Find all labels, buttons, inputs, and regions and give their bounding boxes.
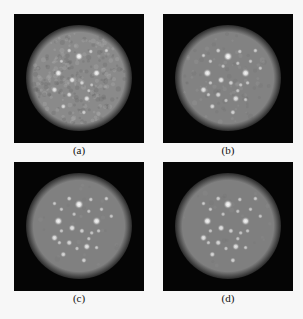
- noise-speckle: [110, 69, 112, 71]
- hot-spot: [223, 52, 233, 62]
- noise-speckle: [46, 89, 48, 91]
- hot-spot: [258, 214, 263, 219]
- noise-speckle: [234, 120, 236, 122]
- hot-spot: [209, 251, 215, 257]
- noise-speckle: [209, 200, 214, 205]
- hot-spot: [66, 92, 72, 98]
- noise-speckle: [112, 77, 116, 81]
- noise-speckle: [60, 80, 64, 84]
- noise-speckle: [225, 67, 229, 71]
- noise-speckle: [84, 121, 87, 124]
- hot-spot: [52, 201, 57, 206]
- hot-spot: [86, 236, 91, 241]
- noise-speckle: [81, 76, 83, 78]
- hot-spot: [248, 59, 253, 64]
- hot-spot: [232, 243, 240, 251]
- noise-speckle: [69, 40, 71, 42]
- noise-speckle: [65, 121, 67, 123]
- hot-spot: [215, 48, 221, 54]
- hot-spot: [83, 243, 91, 251]
- noise-speckle: [90, 66, 92, 68]
- hot-spot: [223, 98, 228, 103]
- noise-speckle: [86, 55, 91, 60]
- hot-spot: [237, 49, 242, 54]
- hot-spot: [253, 48, 258, 53]
- noise-speckle: [102, 73, 104, 75]
- noise-speckle: [94, 115, 98, 119]
- noise-speckle: [91, 119, 95, 123]
- noise-speckle: [111, 82, 115, 86]
- noise-speckle: [48, 72, 50, 74]
- hot-spot: [209, 103, 215, 109]
- noise-speckle: [238, 54, 242, 58]
- noise-speckle: [72, 97, 74, 99]
- noise-speckle: [82, 198, 86, 202]
- hot-spot: [208, 80, 213, 85]
- noise-speckle: [36, 82, 40, 86]
- noise-speckle: [58, 90, 62, 94]
- hot-spot: [253, 196, 258, 201]
- noise-speckle: [44, 82, 48, 86]
- noise-speckle: [82, 104, 85, 107]
- hot-spot: [258, 66, 263, 71]
- noise-speckle: [40, 82, 44, 86]
- noise-speckle: [191, 76, 194, 79]
- hot-spot: [208, 207, 213, 212]
- noise-speckle: [261, 236, 264, 239]
- noise-speckle: [105, 56, 107, 58]
- noise-speckle: [80, 121, 83, 124]
- hot-spot: [215, 196, 221, 202]
- hot-spot: [93, 69, 101, 77]
- noise-speckle: [81, 39, 85, 43]
- hot-spot: [60, 251, 66, 257]
- noise-speckle: [77, 240, 81, 244]
- hot-spot: [57, 240, 62, 245]
- noise-speckle: [102, 41, 107, 46]
- hot-spot: [66, 196, 72, 202]
- noise-speckle: [41, 57, 46, 62]
- noise-speckle: [76, 72, 78, 74]
- noise-speckle: [113, 69, 117, 73]
- noise-speckle: [186, 55, 190, 59]
- noise-speckle: [33, 72, 38, 77]
- noise-speckle: [254, 192, 257, 195]
- noise-speckle: [71, 117, 76, 122]
- hot-spot: [59, 59, 64, 64]
- phantom-svg-c: [14, 162, 144, 291]
- noise-speckle: [205, 46, 209, 50]
- noise-speckle: [199, 57, 204, 62]
- noise-speckle: [74, 95, 79, 100]
- noise-speckle: [104, 80, 106, 82]
- hot-spot: [59, 228, 64, 233]
- hot-spot: [201, 201, 206, 206]
- hot-spot: [75, 52, 84, 61]
- noise-speckle: [258, 96, 261, 99]
- noise-speckle: [53, 49, 56, 52]
- noise-speckle: [74, 92, 76, 94]
- noise-speckle: [98, 59, 101, 62]
- hot-spot: [66, 239, 73, 246]
- hot-spot: [104, 196, 109, 201]
- hot-spot: [96, 228, 101, 233]
- noise-speckle: [103, 105, 107, 109]
- noise-speckle: [102, 95, 106, 99]
- hot-spot: [86, 88, 91, 93]
- hot-spot: [79, 80, 85, 86]
- hot-spot: [81, 257, 87, 263]
- hot-spot: [54, 69, 62, 77]
- noise-speckle: [218, 119, 223, 124]
- noise-speckle: [109, 73, 111, 75]
- hot-spot: [89, 230, 94, 235]
- noise-speckle: [101, 199, 105, 203]
- noise-speckle: [212, 42, 216, 46]
- noise-speckle: [79, 117, 81, 119]
- hot-spot: [60, 103, 66, 109]
- hot-spot: [217, 76, 225, 84]
- noise-speckle: [102, 68, 106, 72]
- noise-speckle: [101, 215, 105, 219]
- noise-speckle: [215, 263, 219, 267]
- noise-speckle: [101, 79, 103, 81]
- noise-speckle: [111, 55, 113, 57]
- hot-spot: [228, 80, 234, 86]
- noise-speckle: [98, 106, 100, 108]
